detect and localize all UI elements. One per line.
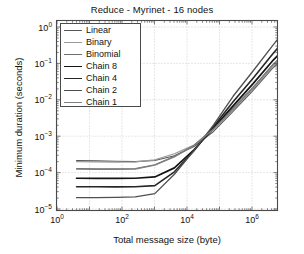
x-tick-label: 104 xyxy=(180,213,194,225)
y-axis-label: Minimum duration (seconds) xyxy=(13,38,24,198)
legend-item-binomial[interactable]: Binomial xyxy=(61,48,140,60)
legend-item-label: Chain 8 xyxy=(86,61,117,72)
legend-item-label: Chain 4 xyxy=(86,73,117,84)
legend-item-binary[interactable]: Binary xyxy=(61,36,140,48)
chart-figure: Reduce - Myrinet - 16 nodes Minimum dura… xyxy=(0,0,304,254)
legend-item-label: Binary xyxy=(86,37,112,48)
legend-swatch-line-icon xyxy=(64,66,82,67)
legend-item-label: Chain 1 xyxy=(86,97,117,108)
legend-swatch-line-icon xyxy=(64,90,82,91)
legend-swatch-line-icon xyxy=(64,30,82,31)
y-tick-label: 10−4 xyxy=(26,166,52,178)
legend-item-label: Linear xyxy=(86,25,111,36)
legend-item-chain-1[interactable]: Chain 1 xyxy=(61,96,140,108)
legend-swatch-line-icon xyxy=(64,102,82,103)
x-axis-label: Total message size (byte) xyxy=(56,234,278,245)
legend-swatch-line-icon xyxy=(64,78,82,79)
legend-swatch-line-icon xyxy=(64,54,82,55)
y-tick-label: 10−1 xyxy=(26,57,52,69)
legend-item-linear[interactable]: Linear xyxy=(61,24,140,36)
x-tick-label: 102 xyxy=(115,213,129,225)
chart-legend: LinearBinaryBinomialChain 8Chain 4Chain … xyxy=(60,23,141,107)
x-tick-label: 106 xyxy=(245,213,259,225)
x-axis-tick-labels: 100102104106 xyxy=(0,213,304,229)
legend-item-chain-4[interactable]: Chain 4 xyxy=(61,72,140,84)
legend-item-label: Chain 2 xyxy=(86,85,117,96)
x-tick-label: 100 xyxy=(50,213,64,225)
legend-item-chain-2[interactable]: Chain 2 xyxy=(61,84,140,96)
legend-item-chain-8[interactable]: Chain 8 xyxy=(61,60,140,72)
legend-item-label: Binomial xyxy=(86,49,121,60)
y-tick-label: 10−2 xyxy=(26,93,52,105)
y-tick-label: 100 xyxy=(26,21,52,33)
y-tick-label: 10−3 xyxy=(26,130,52,142)
legend-swatch-line-icon xyxy=(64,42,82,43)
